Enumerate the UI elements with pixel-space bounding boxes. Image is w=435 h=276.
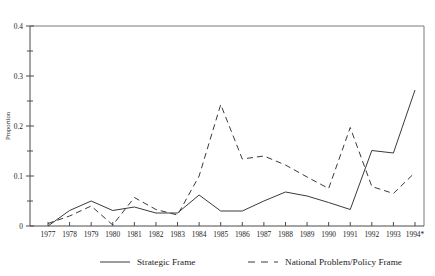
line-chart: 00.10.20.30.4 19771978197919801981198219… [0,0,435,276]
x-tick-label: 1978 [62,230,77,239]
x-tick-label: 1984 [192,230,207,239]
x-axis-tick-labels: 1977197819791980198119821983198419851986… [41,230,425,239]
x-tick-label: 1983 [170,230,185,239]
x-tick-label: 1989 [300,230,315,239]
x-tick-label: 1979 [84,230,99,239]
x-tick-label: 1994* [406,230,425,239]
y-axis-title-text: Proportion [4,111,11,140]
y-tick-label: 0.2 [14,122,24,131]
y-axis-tick-labels: 00.10.20.30.4 [14,22,24,231]
chart-page: 00.10.20.30.4 19771978197919801981198219… [0,0,435,276]
x-tick-label: 1986 [235,230,250,239]
series-line-1 [48,90,415,226]
x-tick-label: 1980 [105,230,120,239]
x-tick-label: 1987 [256,230,271,239]
x-tick-label: 1991 [343,230,358,239]
y-axis-title: Proportion [4,111,11,140]
legend-label-1: Strategic Frame [137,257,195,267]
y-tick-label: 0.4 [14,22,24,31]
x-tick-label: 1977 [41,230,56,239]
chart-legend: Strategic FrameNational Problem/Policy F… [100,257,402,267]
x-tick-label: 1992 [364,230,379,239]
x-axis-ticks [48,222,415,226]
data-series-group [48,90,415,226]
x-tick-label: 1988 [278,230,293,239]
y-tick-label: 0.1 [14,172,24,181]
x-tick-label: 1981 [127,230,142,239]
x-tick-label: 1993 [386,230,401,239]
y-tick-label: 0 [19,222,23,231]
legend-label-2: National Problem/Policy Frame [285,257,402,267]
plot-frame [30,26,424,226]
x-tick-label: 1982 [149,230,164,239]
series-line-2 [48,105,415,226]
x-tick-label: 1985 [213,230,228,239]
y-tick-label: 0.3 [14,72,24,81]
x-tick-label: 1990 [321,230,336,239]
